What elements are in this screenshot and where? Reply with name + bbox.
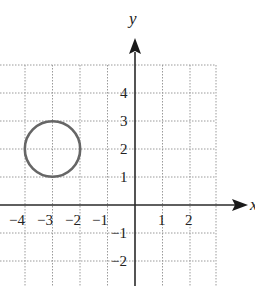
x-tick-label: −2 [65, 212, 81, 228]
x-tick-label: −4 [9, 212, 25, 228]
coordinate-plane: y x −4 −3 −2 −1 1 2 4 3 2 1 −1 −2 [0, 0, 255, 286]
y-tick-label: 4 [120, 85, 128, 101]
y-axis-label: y [127, 9, 137, 28]
y-tick-label: 2 [120, 141, 128, 157]
x-tick-label: −3 [37, 212, 53, 228]
x-tick-label: 1 [158, 212, 166, 228]
grid [0, 65, 216, 286]
x-tick-label: 2 [185, 212, 193, 228]
axes [0, 52, 236, 286]
y-tick-label: 1 [120, 169, 128, 185]
y-tick-label: 3 [120, 113, 128, 129]
x-axis-label: x [249, 195, 255, 214]
x-tick-label: −1 [92, 212, 108, 228]
y-tick-label: −1 [111, 225, 127, 241]
y-axis-arrow-icon [129, 38, 141, 54]
y-tick-label: −2 [111, 253, 127, 269]
